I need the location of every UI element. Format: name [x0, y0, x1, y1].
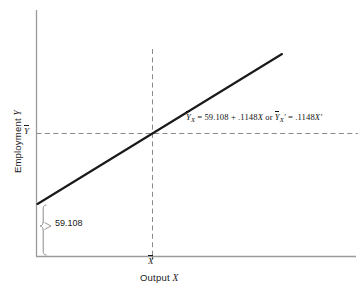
equation-lhs-variable: Y — [186, 112, 191, 122]
x-axis-title-text: Output — [140, 272, 170, 283]
equation-lhs2-prime: ′ — [284, 112, 286, 122]
equation-second-expression: = .1148 — [288, 112, 315, 122]
y-axis-title-text: Employment — [12, 118, 23, 173]
equation-variable-x: X — [258, 112, 263, 122]
regression-line — [38, 54, 283, 204]
y-axis-title-variable: Y — [13, 110, 23, 115]
intercept-value-label: 59.108 — [55, 218, 83, 228]
equation-connector: or — [265, 112, 272, 122]
intercept-brace-icon — [40, 205, 46, 255]
y-mean-tick-label: Y — [24, 126, 29, 136]
equation-variable-x2-prime: ′ — [320, 112, 322, 122]
regression-chart-figure: Employment Y Output X Y X YX = 59.108 + … — [0, 0, 360, 291]
x-mean-tick-label: X — [148, 256, 154, 266]
equation-lhs-subscript: X — [191, 116, 195, 123]
equation-lhs2-variable: Y — [275, 112, 280, 122]
intercept-brace-pointer-icon — [45, 223, 52, 230]
y-mean-overbar-variable: Y — [24, 126, 29, 136]
chart-canvas — [0, 0, 360, 291]
x-axis-title: Output X — [140, 272, 179, 283]
equation-first-expression: = 59.108 + .1148 — [197, 112, 257, 122]
overbar-icon — [24, 125, 29, 126]
regression-equation-annotation: YX = 59.108 + .1148X or YX′ = .1148X′ — [186, 112, 322, 123]
x-mean-overbar-variable: X — [148, 256, 154, 266]
overbar-icon — [275, 111, 279, 112]
x-axis-title-variable: X — [173, 273, 179, 283]
overbar-icon — [186, 111, 190, 112]
overbar-icon — [148, 255, 153, 256]
y-axis-title: Employment Y — [12, 87, 23, 197]
